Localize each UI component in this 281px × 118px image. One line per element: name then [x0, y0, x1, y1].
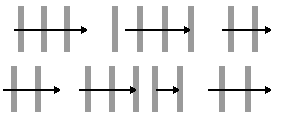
- bars-and-arrows-diagram: [0, 0, 281, 118]
- vertical-bar: [112, 6, 118, 52]
- figure-container: [0, 0, 281, 118]
